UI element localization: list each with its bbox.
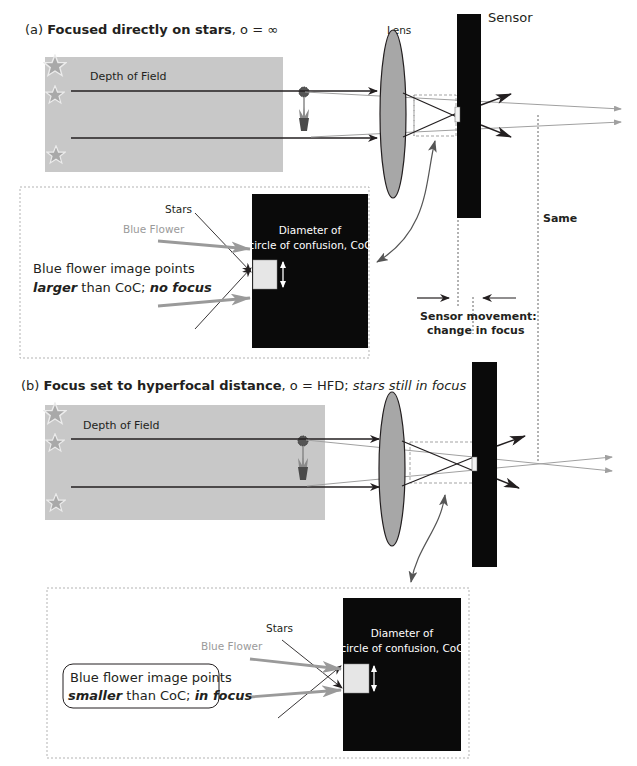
hyperfocal-diagram: (a) Focused directly on stars, o = ∞ Dep… [0,0,637,766]
blue-flower-icon [299,87,309,131]
stars-label: Stars [266,622,293,634]
lens-a [380,30,406,198]
lens-b [379,392,405,546]
panel-a-title: (a) Focused directly on stars, o = ∞ [25,22,278,37]
caption-b-line1: Blue flower image points [70,670,232,685]
coc-label-line1: Diameter of [279,224,342,236]
sensor-movement-line1: Sensor movement: [420,310,537,323]
blue-flower-label: Blue Flower [123,223,185,235]
sensor-movement-line2: change in focus [427,324,525,337]
sensor-a [457,14,481,218]
stars-label: Stars [165,203,192,215]
depth-of-field-label-b: Depth of Field [83,419,160,432]
caption-a-line2: larger than CoC; no focus [33,280,212,295]
caption-b-line2: smaller than CoC; in focus [68,688,252,703]
blue-flower-label: Blue Flower [201,640,263,652]
coc-square-a [253,260,277,289]
same-label: Same [543,212,577,225]
coc-square-b [344,664,369,693]
coc-label-line1: Diameter of [371,627,434,639]
coc-label-line2: circle of confusion, CoC [248,239,371,251]
depth-of-field-label-a: Depth of Field [90,70,167,83]
panel-b-title: (b) Focus set to hyperfocal distance, o … [21,378,467,393]
caption-a-line1: Blue flower image points [33,261,195,276]
coc-label-line2: circle of confusion, CoC [340,642,463,654]
sensor-label: Sensor [488,10,533,25]
